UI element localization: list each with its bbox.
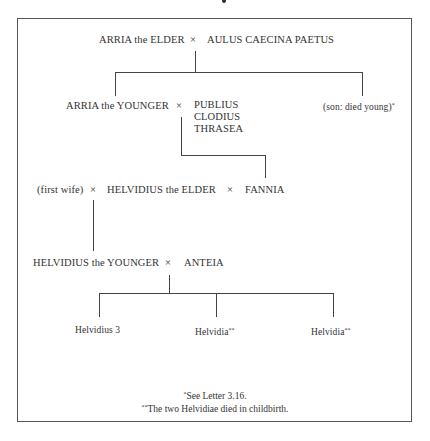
descent-line: [216, 293, 217, 317]
descent-line: [195, 51, 196, 73]
marriage-symbol: ×: [190, 34, 196, 46]
person-aulus-caecina-paetus: AULUS CAECINA PAETUS: [207, 34, 334, 46]
descent-line: [333, 293, 334, 317]
person-helvidia-2: Helvidia**: [311, 324, 351, 338]
child-label: Helvidius 3: [75, 325, 120, 335]
footnote-marker: *: [392, 102, 395, 108]
connector-line: [181, 155, 266, 156]
descent-line: [115, 72, 116, 96]
descent-line: [169, 275, 170, 294]
person-publius-clodius-thrasea-line1: PUBLIUS: [194, 99, 238, 111]
person-helvidius-3: Helvidius 3: [75, 324, 120, 336]
footnote-1: *See Letter 3.16.: [0, 388, 430, 402]
person-son-died-young: (son: died young)*: [323, 99, 395, 113]
child-label: Helvidia: [311, 327, 345, 337]
sibling-line: [115, 72, 363, 73]
son-label: (son: died young): [323, 102, 392, 112]
page-mark: [222, 0, 226, 3]
descent-line: [181, 117, 182, 156]
person-anteia: ANTEIA: [184, 257, 224, 269]
person-helvidius-the-younger: HELVIDIUS the YOUNGER: [33, 257, 159, 269]
person-publius-clodius-thrasea-line2: CLODIUS: [194, 111, 240, 123]
footnote-text: See Letter 3.16.: [186, 391, 246, 401]
descent-line: [99, 293, 100, 317]
person-arria-the-elder: ARRIA the ELDER: [99, 34, 185, 46]
person-first-wife: (first wife): [37, 184, 83, 196]
descent-line: [93, 200, 94, 251]
descent-line: [265, 155, 266, 178]
marriage-symbol: ×: [90, 184, 96, 196]
person-helvidius-the-elder: HELVIDIUS the ELDER: [107, 184, 216, 196]
person-helvidia-1: Helvidia**: [195, 324, 235, 338]
footnote-text: The two Helvidiae died in childbirth.: [148, 404, 289, 414]
descent-line: [362, 72, 363, 96]
person-arria-the-younger: ARRIA the YOUNGER: [66, 100, 169, 112]
person-publius-clodius-thrasea-line3: THRASEA: [194, 123, 243, 135]
child-label: Helvidia: [195, 327, 229, 337]
marriage-symbol: ×: [176, 100, 182, 112]
person-fannia: FANNIA: [245, 184, 285, 196]
footnote-marker: **: [345, 327, 351, 333]
marriage-symbol: ×: [227, 184, 233, 196]
marriage-symbol: ×: [165, 257, 171, 269]
family-tree-frame: [17, 18, 412, 422]
footnote-2: **The two Helvidiae died in childbirth.: [0, 401, 430, 415]
footnote-marker: **: [229, 327, 235, 333]
